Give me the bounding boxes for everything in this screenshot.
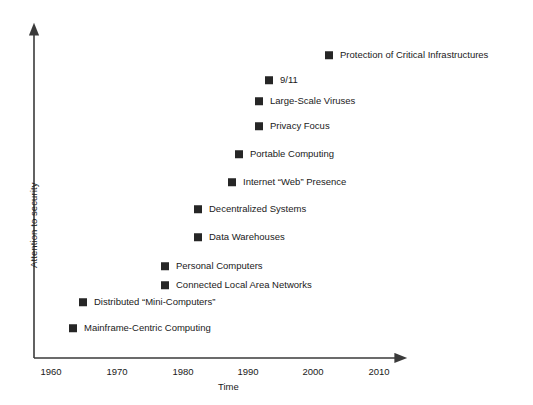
x-tick-1970: 1970 (106, 366, 127, 377)
x-tick-1990: 1990 (237, 366, 258, 377)
data-point: Mainframe-Centric Computing (69, 323, 211, 333)
x-tick-2000: 2000 (302, 366, 323, 377)
data-point-label: 9/11 (280, 75, 298, 85)
x-tick-1980: 1980 (172, 366, 193, 377)
data-point-marker (228, 178, 236, 186)
data-point-marker (79, 298, 87, 306)
data-point-marker (265, 76, 273, 84)
security-timeline-chart: Attention to security Time 1960 1970 198… (0, 0, 533, 405)
data-point-label: Protection of Critical Infrastructures (340, 50, 488, 60)
data-point-marker (194, 205, 202, 213)
data-point-marker (325, 51, 333, 59)
data-point: Privacy Focus (255, 121, 330, 131)
data-point-marker (235, 150, 243, 158)
data-point-label: Large-Scale Viruses (270, 96, 355, 106)
data-point: Distributed “Mini-Computers” (79, 297, 215, 307)
data-point-label: Portable Computing (250, 149, 334, 159)
data-point-marker (161, 262, 169, 270)
data-point: Large-Scale Viruses (255, 96, 355, 106)
data-point-marker (161, 281, 169, 289)
data-point-label: Internet “Web” Presence (243, 177, 346, 187)
data-point-marker (194, 233, 202, 241)
x-axis-label: Time (218, 381, 239, 392)
data-point-marker (69, 324, 77, 332)
data-point: Protection of Critical Infrastructures (325, 50, 488, 60)
data-point: Internet “Web” Presence (228, 177, 346, 187)
data-point: 9/11 (265, 75, 298, 85)
data-point-label: Data Warehouses (209, 232, 285, 242)
data-point: Connected Local Area Networks (161, 280, 312, 290)
data-point-marker (255, 97, 263, 105)
data-point-label: Mainframe-Centric Computing (84, 323, 211, 333)
y-axis-label: Attention to security (28, 182, 39, 268)
data-point-label: Privacy Focus (270, 121, 330, 131)
data-point: Decentralized Systems (194, 204, 306, 214)
data-point: Personal Computers (161, 261, 263, 271)
data-point: Portable Computing (235, 149, 334, 159)
data-point-marker (255, 122, 263, 130)
data-point: Data Warehouses (194, 232, 285, 242)
data-point-label: Distributed “Mini-Computers” (94, 297, 215, 307)
x-tick-2010: 2010 (368, 366, 389, 377)
data-point-label: Decentralized Systems (209, 204, 306, 214)
data-point-label: Connected Local Area Networks (176, 280, 312, 290)
data-point-label: Personal Computers (176, 261, 263, 271)
x-tick-1960: 1960 (40, 366, 61, 377)
